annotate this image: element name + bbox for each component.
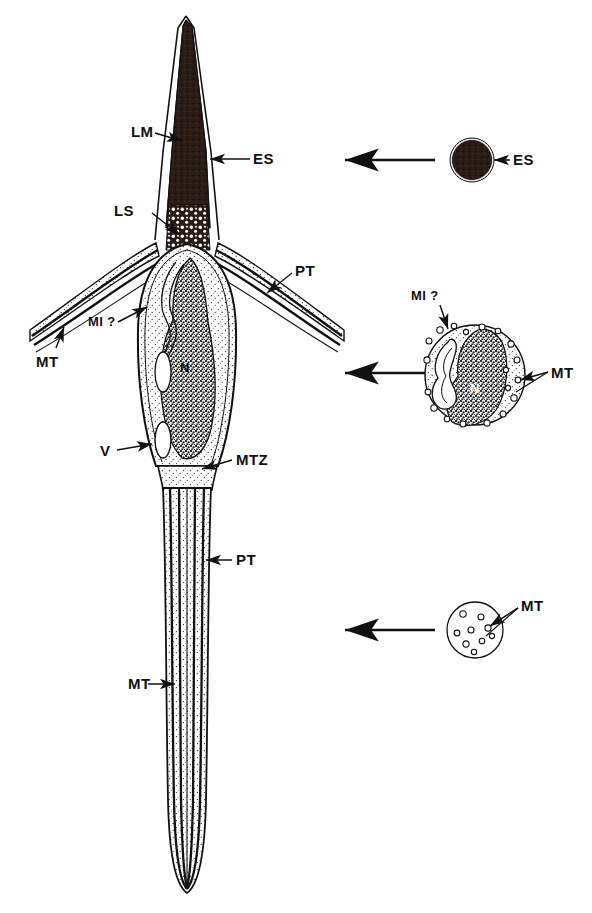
flagellar-tail bbox=[163, 488, 211, 893]
longitudinal-spermatozoon bbox=[30, 16, 344, 893]
sperm-ultrastructure-figure: LM ES LS PT MT MI ? V MTZ PT MT ES MI ? … bbox=[0, 0, 592, 913]
label-mi-main: MI ? bbox=[88, 315, 116, 328]
label-es-main: ES bbox=[253, 151, 274, 166]
label-v: V bbox=[100, 443, 110, 458]
label-mt-section-bot: MT bbox=[521, 598, 543, 613]
label-pt-tail: PT bbox=[236, 552, 256, 567]
vesicle bbox=[155, 422, 171, 458]
label-lm: LM bbox=[131, 124, 153, 139]
section-connectors bbox=[345, 160, 435, 630]
label-pt-top: PT bbox=[295, 263, 315, 278]
leader-v bbox=[117, 444, 152, 450]
section-acrosome bbox=[450, 138, 510, 182]
label-mt-tail: MT bbox=[128, 676, 150, 691]
label-es-section: ES bbox=[513, 152, 534, 167]
label-mi-section: MI ? bbox=[411, 289, 439, 302]
section-tail bbox=[447, 602, 518, 658]
label-mtz: MTZ bbox=[236, 452, 268, 467]
label-ls: LS bbox=[114, 203, 134, 218]
label-mt-section-mid: MT bbox=[551, 365, 573, 380]
acrosome-spike bbox=[166, 20, 210, 250]
microtubule-zone bbox=[158, 466, 217, 490]
figure-canvas bbox=[0, 0, 592, 913]
section-nucleus bbox=[424, 305, 548, 427]
label-nucleus-main: N bbox=[180, 361, 190, 374]
label-nucleus-section: N bbox=[470, 382, 480, 395]
label-mt-left: MT bbox=[36, 354, 58, 369]
